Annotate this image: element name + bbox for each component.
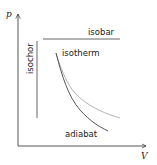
y-axis-label: p [6,9,12,19]
x-axis-label: V [141,151,149,161]
isotherm-label: isotherm [62,48,100,58]
isobar-label: isobar [88,27,115,37]
pv-diagram: p V isobar isochor isotherm adiabat [0,0,157,165]
isochor-label: isochor [25,43,35,74]
adiabat-label: adiabat [65,129,98,139]
adiabat-curve [56,53,108,131]
